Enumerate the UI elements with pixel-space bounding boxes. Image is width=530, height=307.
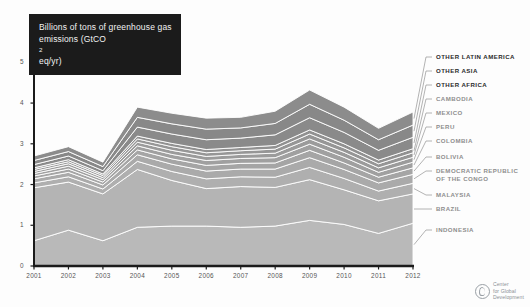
legend-item-other-africa: OTHER AFRICA <box>436 81 487 89</box>
legend-item-peru: PERU <box>436 123 455 131</box>
x-axis-label-2010: 2010 <box>333 272 355 279</box>
chart-title-subscript: 2 <box>39 46 172 55</box>
legend-item-label: BOLIVIA <box>436 153 464 161</box>
legend-item-cambodia: CAMBODIA <box>436 95 473 103</box>
legend-item-bolivia: BOLIVIA <box>436 153 464 161</box>
legend-item-label: OTHER AFRICA <box>436 81 487 89</box>
cgd-logo-line3: Development <box>493 294 524 301</box>
y-axis-label-4: 4 <box>20 99 24 106</box>
x-axis-label-2004: 2004 <box>126 272 148 279</box>
legend-item-label: OTHER ASIA <box>436 67 478 75</box>
legend-item-label: DEMOCRATIC REPUBLIC <box>436 167 518 175</box>
y-axis-label-3: 3 <box>20 140 24 147</box>
legend-item-indonesia: INDONESIA <box>436 226 474 234</box>
x-axis-label-2008: 2008 <box>264 272 286 279</box>
legend-item-democratic-republic: DEMOCRATIC REPUBLICOF THE CONGO <box>436 167 518 183</box>
x-axis-label-2007: 2007 <box>230 272 252 279</box>
cgd-logo-line2: for Global <box>493 288 524 295</box>
legend-item-label: MEXICO <box>436 109 463 117</box>
y-axis-label-1: 1 <box>20 221 24 228</box>
x-axis-label-2003: 2003 <box>92 272 114 279</box>
legend-item-label: OTHER LATIN AMERICA <box>436 53 515 61</box>
legend-leader-line-peru <box>414 127 432 160</box>
x-axis-label-2006: 2006 <box>195 272 217 279</box>
x-axis-label-2001: 2001 <box>23 272 45 279</box>
chart-title-line2: emissions (GtCO2eq/yr) <box>39 33 172 67</box>
y-axis-label-2: 2 <box>20 181 24 188</box>
legend-item-colombia: COLOMBIA <box>436 137 473 145</box>
x-axis-label-2011: 2011 <box>368 272 390 279</box>
x-axis-label-2002: 2002 <box>57 272 79 279</box>
cgd-logo-line1: Center <box>493 281 524 288</box>
chart-title-line2-post: eq/yr) <box>39 55 172 67</box>
chart-page: Billions of tons of greenhouse gas emiss… <box>0 0 530 307</box>
legend-leader-line-malaysia <box>414 189 432 195</box>
legend-leader-line-indonesia <box>414 230 432 245</box>
legend-item-label: PERU <box>436 123 455 131</box>
y-axis-label-0: 0 <box>20 262 24 269</box>
legend-item-other-asia: OTHER ASIA <box>436 67 478 75</box>
legend-item-label: INDONESIA <box>436 226 474 234</box>
legend-item-label: CAMBODIA <box>436 95 473 103</box>
legend-item-other-latin-america: OTHER LATIN AMERICA <box>436 53 515 61</box>
legend-item-label: MALAYSIA <box>436 191 471 199</box>
x-axis-label-2012: 2012 <box>402 272 424 279</box>
cgd-logo: Center for Global Development <box>475 281 524 301</box>
legend-item-brazil: BRAZIL <box>436 205 461 213</box>
x-axis-label-2005: 2005 <box>161 272 183 279</box>
chart-title-line2-pre: emissions (GtCO <box>39 33 172 45</box>
chart-title-line1: Billions of tons of greenhouse gas <box>39 21 172 33</box>
cgd-circle-logo-icon <box>475 284 490 299</box>
chart-title: Billions of tons of greenhouse gas emiss… <box>29 14 181 75</box>
legend-item-label-line2: OF THE CONGO <box>436 175 518 183</box>
legend-item-label: COLOMBIA <box>436 137 473 145</box>
x-axis-label-2009: 2009 <box>299 272 321 279</box>
legend-item-mexico: MEXICO <box>436 109 463 117</box>
y-axis-label-5: 5 <box>20 58 24 65</box>
legend-leader-line-democratic-republic <box>414 171 432 179</box>
legend-item-malaysia: MALAYSIA <box>436 191 471 199</box>
legend-item-label: BRAZIL <box>436 205 461 213</box>
cgd-logo-text: Center for Global Development <box>493 281 524 301</box>
